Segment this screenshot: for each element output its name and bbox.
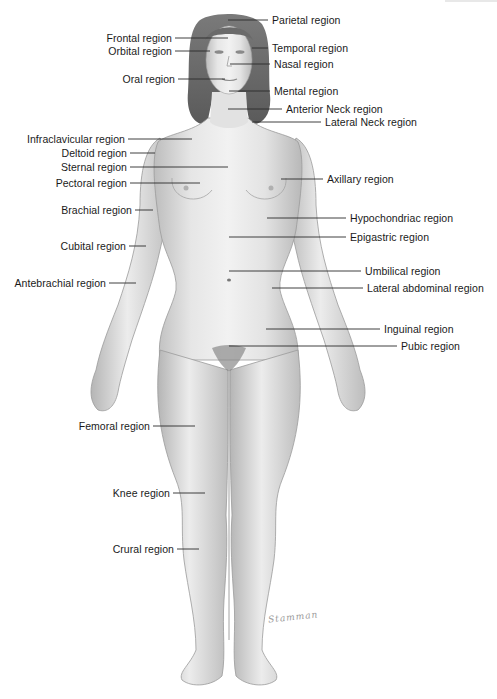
- label-mental-region: Mental region: [274, 85, 338, 97]
- label-orbital-region: Orbital region: [108, 45, 172, 57]
- navel: [227, 279, 231, 282]
- label-cubital-region: Cubital region: [61, 240, 127, 252]
- label-frontal-region: Frontal region: [107, 32, 172, 44]
- right-eye: [236, 50, 245, 54]
- right-leg: [230, 350, 300, 685]
- label-lateral-neck-region: Lateral Neck region: [325, 116, 417, 128]
- label-crural-region: Crural region: [113, 543, 174, 555]
- label-antebrachial-region: Antebrachial region: [15, 277, 106, 289]
- right-nipple: [269, 186, 274, 191]
- face: [206, 26, 252, 94]
- label-knee-region: Knee region: [113, 487, 170, 499]
- label-anterior-neck-region: Anterior Neck region: [286, 103, 383, 115]
- label-axillary-region: Axillary region: [327, 173, 394, 185]
- left-nipple: [184, 186, 189, 191]
- torso: [154, 118, 302, 360]
- label-parietal-region: Parietal region: [272, 14, 340, 26]
- label-epigastric-region: Epigastric region: [350, 231, 429, 243]
- label-deltoid-region: Deltoid region: [62, 147, 128, 159]
- label-sternal-region: Sternal region: [61, 161, 127, 173]
- left-leg: [158, 350, 228, 685]
- neck: [210, 92, 248, 128]
- label-lateral-abdominal-region: Lateral abdominal region: [367, 282, 484, 294]
- label-hypochondriac-region: Hypochondriac region: [350, 212, 453, 224]
- label-brachial-region: Brachial region: [61, 204, 132, 216]
- label-pubic-region: Pubic region: [401, 340, 460, 352]
- label-inguinal-region: Inguinal region: [384, 323, 454, 335]
- anatomy-diagram: Frontal regionOrbital regionOral regionI…: [0, 0, 497, 699]
- label-nasal-region: Nasal region: [274, 58, 334, 70]
- label-infraclavicular-region: Infraclavicular region: [27, 133, 125, 145]
- label-oral-region: Oral region: [123, 73, 176, 85]
- label-temporal-region: Temporal region: [272, 42, 348, 54]
- left-eye: [215, 50, 224, 54]
- label-umbilical-region: Umbilical region: [365, 265, 441, 277]
- label-pectoral-region: Pectoral region: [56, 177, 127, 189]
- label-femoral-region: Femoral region: [79, 420, 150, 432]
